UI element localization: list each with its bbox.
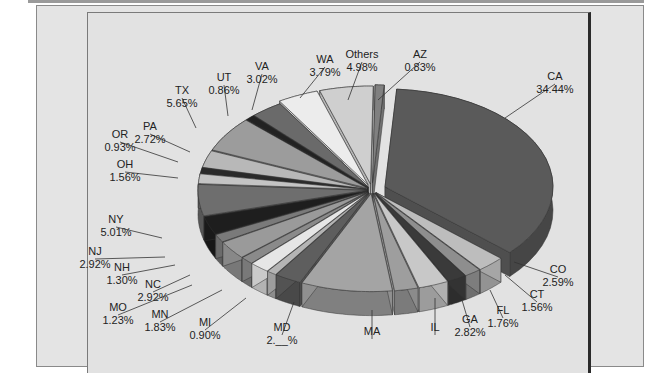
label-nj: NJ2.92% bbox=[79, 245, 110, 270]
label-co: CO2.59% bbox=[542, 263, 573, 288]
label-ct: CT1.56% bbox=[521, 288, 552, 313]
label-oh: OH1.56% bbox=[109, 158, 140, 183]
label-md: MD2.__% bbox=[266, 321, 297, 346]
label-mn: MN1.83% bbox=[144, 308, 175, 333]
label-fl: FL1.76% bbox=[487, 304, 518, 329]
label-az: AZ0.83% bbox=[404, 48, 435, 73]
label-ma: MA bbox=[364, 325, 381, 337]
label-ca: CA34.44% bbox=[536, 70, 574, 95]
label-others: Others4.98% bbox=[345, 48, 379, 73]
label-va: VA3.02% bbox=[246, 60, 277, 85]
label-mo: MO1.23% bbox=[102, 301, 133, 326]
label-pa: PA2.72% bbox=[134, 120, 165, 145]
label-wa: WA3.79% bbox=[309, 53, 340, 78]
label-ga: GA2.82% bbox=[454, 313, 485, 338]
leader-line-mi bbox=[205, 298, 246, 330]
label-nh: NH1.30% bbox=[106, 261, 137, 286]
label-ny: NY5.01% bbox=[100, 213, 131, 238]
label-tx: TX5.65% bbox=[166, 84, 197, 109]
label-or: OR0.93% bbox=[104, 128, 135, 153]
label-ut: UT0.86% bbox=[208, 71, 239, 96]
label-nc: NC2.92% bbox=[137, 278, 168, 303]
leader-line-mn bbox=[160, 290, 222, 322]
label-mi: MI0.90% bbox=[189, 316, 220, 341]
label-il: IL bbox=[430, 321, 439, 333]
